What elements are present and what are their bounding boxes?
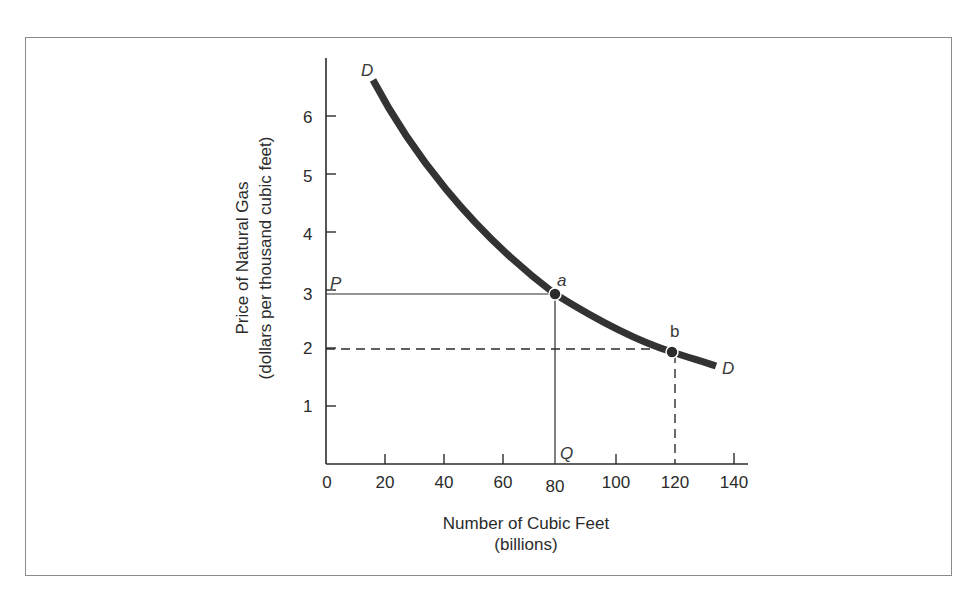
svg-text:1: 1 xyxy=(303,397,312,416)
x-axis-title: Number of Cubic Feet xyxy=(443,514,610,533)
x-tick-labels: 0 20 40 60 80 100 120 140 xyxy=(322,473,748,496)
y-axis-subtitle: (dollars per thousand cubic feet) xyxy=(256,137,275,380)
svg-text:6: 6 xyxy=(303,108,312,127)
demand-chart: 1 2 3 4 5 6 0 20 40 60 80 100 120 140 D … xyxy=(0,0,974,600)
svg-text:4: 4 xyxy=(303,225,312,244)
p-label: P xyxy=(330,274,342,293)
curve-label-end: D xyxy=(722,359,734,378)
svg-text:3: 3 xyxy=(303,285,312,304)
svg-text:40: 40 xyxy=(435,473,454,492)
svg-text:2: 2 xyxy=(303,339,312,358)
point-b-label: b xyxy=(670,322,679,341)
point-b-marker xyxy=(666,346,678,358)
svg-text:100: 100 xyxy=(602,473,630,492)
curve-label-start: D xyxy=(361,61,373,80)
y-axis-title: Price of Natural Gas xyxy=(233,181,252,334)
svg-text:5: 5 xyxy=(303,167,312,186)
svg-text:80: 80 xyxy=(546,477,565,496)
point-a-label: a xyxy=(557,271,566,290)
y-ticks xyxy=(326,116,336,406)
svg-text:140: 140 xyxy=(720,473,748,492)
svg-text:20: 20 xyxy=(376,473,395,492)
q-label: Q xyxy=(560,444,573,463)
svg-text:120: 120 xyxy=(661,473,689,492)
demand-curve xyxy=(373,80,716,366)
y-tick-labels: 1 2 3 4 5 6 xyxy=(303,108,312,416)
svg-text:60: 60 xyxy=(494,473,513,492)
svg-text:0: 0 xyxy=(322,473,331,492)
x-axis-subtitle: (billions) xyxy=(494,535,557,554)
